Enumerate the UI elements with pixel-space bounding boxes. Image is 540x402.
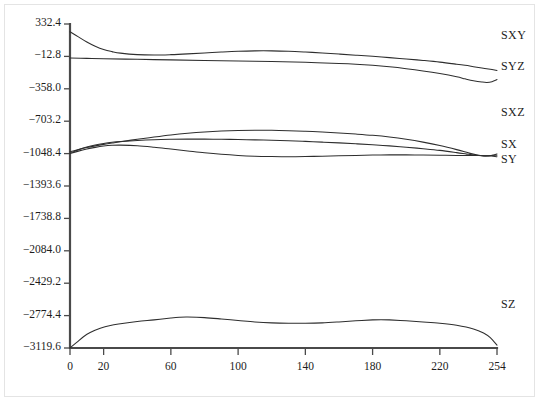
series-line-sz (70, 317, 497, 348)
y-tick-label-3: −703.2 (29, 113, 61, 125)
chart-container: 332.4−12.8−358.0−703.2−1048.4−1393.6−173… (0, 0, 540, 402)
series-label-syz: SYZ (501, 59, 525, 74)
x-tick-label-5: 180 (348, 360, 398, 372)
x-tick-label-4: 140 (280, 360, 330, 372)
y-tick-label-9: −2774.4 (23, 308, 61, 320)
series-label-sz: SZ (501, 297, 516, 312)
y-tick-label-6: −1738.8 (23, 210, 61, 222)
plot-area (0, 0, 540, 402)
ticks-group (64, 24, 497, 355)
series-line-sxz (70, 130, 497, 156)
series-label-sxz: SXZ (501, 105, 525, 120)
series-group (70, 32, 497, 348)
y-tick-label-4: −1048.4 (23, 146, 61, 158)
y-tick-label-2: −358.0 (29, 81, 61, 93)
y-tick-label-1: −12.8 (34, 48, 61, 60)
series-line-sxy (70, 32, 497, 71)
series-line-sy (70, 145, 497, 157)
x-tick-label-7: 254 (472, 360, 522, 372)
y-tick-label-0: 332.4 (35, 16, 61, 28)
y-tick-label-10: −3119.6 (23, 340, 61, 352)
x-tick-label-6: 220 (415, 360, 465, 372)
x-tick-label-2: 60 (146, 360, 196, 372)
x-tick-label-1: 20 (79, 360, 129, 372)
series-label-sxy: SXY (501, 28, 526, 43)
y-tick-label-8: −2429.2 (23, 275, 61, 287)
y-tick-label-5: −1393.6 (23, 178, 61, 190)
series-label-sx: SX (501, 137, 517, 152)
x-tick-label-3: 100 (213, 360, 263, 372)
y-tick-label-7: −2084.0 (23, 243, 61, 255)
series-line-sx (70, 139, 497, 156)
series-label-sy: SY (501, 152, 517, 167)
